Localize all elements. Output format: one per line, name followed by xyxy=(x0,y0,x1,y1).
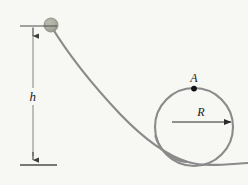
physics-diagram-figure: h A R xyxy=(0,0,248,185)
point-a-label: A xyxy=(189,71,198,85)
radius-label: R xyxy=(196,105,205,119)
point-a-marker xyxy=(191,86,197,92)
figure-canvas: h A R xyxy=(0,0,248,185)
ball xyxy=(44,18,58,32)
height-label: h xyxy=(30,89,37,104)
